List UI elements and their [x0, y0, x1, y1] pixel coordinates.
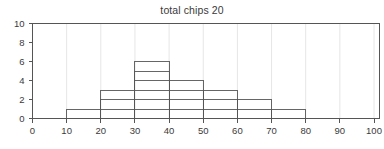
x-tick-label: 10 [61, 125, 72, 136]
x-tick-label: 90 [335, 125, 346, 136]
x-tick-label: 0 [30, 125, 35, 136]
histogram-bar [135, 90, 169, 119]
x-tick-label: 70 [266, 125, 277, 136]
x-tick-label: 80 [300, 125, 311, 136]
x-tick-label: 30 [130, 125, 141, 136]
x-tick-label: 40 [164, 125, 175, 136]
x-tick-label: 60 [232, 125, 243, 136]
y-axis-tick-labels: 0246810 [14, 18, 25, 124]
y-tick-label: 2 [19, 94, 24, 105]
histogram-bar [203, 109, 237, 119]
histogram-bar [169, 109, 203, 119]
plot-frame [33, 24, 380, 119]
y-axis-ticks [29, 24, 33, 119]
axis-frame [33, 24, 380, 119]
histogram-bar [135, 109, 169, 119]
histogram-bar [237, 109, 271, 119]
y-tick-label: 8 [19, 37, 24, 48]
histogram-bar [135, 71, 169, 119]
histogram-bar [101, 109, 135, 119]
x-tick-label: 100 [366, 125, 382, 136]
y-tick-label: 10 [14, 18, 25, 29]
histogram-bars-group [67, 62, 306, 119]
y-tick-label: 0 [19, 113, 24, 124]
chart-container: total chips 20 0102030405060708090100 02… [0, 0, 384, 149]
gridlines-group [67, 24, 374, 119]
x-axis-ticks [33, 119, 375, 123]
x-tick-label: 50 [198, 125, 209, 136]
histogram-bar [67, 109, 101, 119]
y-tick-label: 4 [19, 75, 24, 86]
y-tick-label: 6 [19, 56, 24, 67]
histogram-plot: 0102030405060708090100 0246810 [0, 0, 384, 149]
histogram-bar [101, 90, 135, 119]
histogram-bar [203, 90, 237, 119]
x-axis-tick-labels: 0102030405060708090100 [30, 125, 382, 136]
histogram-bar [169, 90, 203, 119]
histogram-bar [272, 109, 306, 119]
x-tick-label: 20 [96, 125, 107, 136]
